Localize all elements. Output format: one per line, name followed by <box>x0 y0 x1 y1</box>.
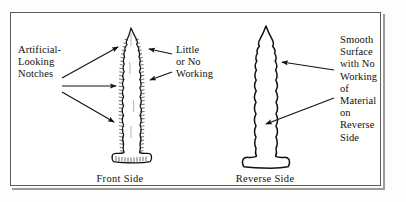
annotation-label-smooth-surface: Smooth Surface with No Working of Materi… <box>340 34 402 144</box>
arrow-group-little-working <box>149 49 172 80</box>
caption-front-side: Front Side <box>75 173 165 184</box>
caption-reverse-side: Reverse Side <box>215 173 315 184</box>
front-side-projectile-point <box>112 28 151 163</box>
figure-illustration: Artificial- Looking Notches Little or No… <box>0 0 406 202</box>
reverse-side-projectile-point <box>243 26 290 168</box>
annotation-label-little-working: Little or No Working <box>176 44 236 81</box>
annotation-label-artificial-notches: Artificial- Looking Notches <box>18 44 96 81</box>
